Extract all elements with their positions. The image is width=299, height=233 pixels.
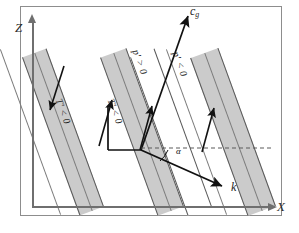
band-arrow-middle bbox=[140, 106, 152, 150]
x-axis-arrowhead bbox=[268, 203, 277, 211]
wave-vector-arrow bbox=[141, 150, 222, 186]
wave-vector-symbol: k bbox=[231, 180, 236, 194]
x-axis-label: X bbox=[277, 199, 285, 215]
group-velocity-arrow bbox=[141, 16, 188, 150]
angle-alpha-label: α bbox=[176, 146, 181, 156]
wave-vector-label: k bbox=[231, 180, 236, 195]
figure-canvas: Z X cg k α p′ > 0 p′ < 0 T′ < 0 T′ < 0 bbox=[0, 0, 299, 233]
group-velocity-label: cg bbox=[190, 4, 199, 19]
group-velocity-subscript: g bbox=[195, 10, 199, 19]
z-axis-line bbox=[32, 22, 34, 208]
z-axis-arrowhead bbox=[28, 14, 36, 23]
vector-overlay bbox=[0, 0, 299, 233]
x-axis-line bbox=[32, 206, 270, 208]
band-arrow-right bbox=[202, 108, 214, 152]
z-axis-label: Z bbox=[15, 20, 22, 36]
